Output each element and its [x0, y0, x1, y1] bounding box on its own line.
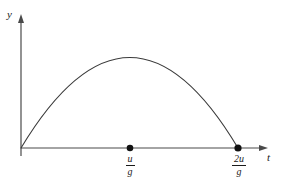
- fraction-numerator: u: [126, 154, 135, 165]
- tick-label-u-over-g: u g: [118, 154, 142, 177]
- fraction-denominator: g: [126, 167, 135, 178]
- x-axis: [21, 145, 268, 151]
- fraction-numerator: 2u: [232, 154, 246, 165]
- projectile-trajectory-figure: y t u g 2u g: [0, 0, 283, 191]
- fraction-u-over-g: u g: [126, 154, 135, 177]
- marker-point-2u-over-g: [234, 144, 241, 151]
- marker-point-u-over-g: [127, 145, 134, 152]
- tick-label-2u-over-g: 2u g: [225, 154, 253, 177]
- fraction-2u-over-g: 2u g: [232, 154, 246, 177]
- y-axis: [18, 14, 24, 156]
- y-axis-arrowhead-icon: [18, 14, 24, 23]
- fraction-denominator: g: [232, 167, 246, 178]
- x-axis-label: t: [267, 152, 270, 163]
- trajectory-curve: [21, 58, 238, 149]
- y-axis-label: y: [7, 9, 12, 20]
